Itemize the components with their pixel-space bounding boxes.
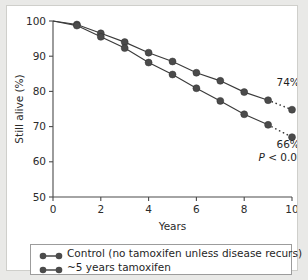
data-point-marker <box>121 45 128 52</box>
x-tick-label: 2 <box>97 203 104 215</box>
figure-container: 5060708090100 0246810 Still alive (%) Ye… <box>0 0 308 280</box>
x-axis-tick-labels: 0246810 <box>50 203 297 215</box>
y-tick-label: 60 <box>33 155 46 167</box>
data-point-marker <box>73 22 80 29</box>
legend-key-control-icon <box>37 247 67 259</box>
data-point-marker <box>145 59 152 66</box>
y-tick-label: 90 <box>33 50 46 62</box>
y-tick-label: 70 <box>33 120 46 132</box>
data-point-marker <box>217 97 224 104</box>
data-point-marker <box>145 49 152 56</box>
series-control <box>53 21 296 141</box>
legend-item-tamoxifen: ~5 years tamoxifen <box>37 260 291 274</box>
p-value-annotation: P < 0.00001 <box>259 151 297 163</box>
legend-label-tamoxifen: ~5 years tamoxifen <box>67 261 171 273</box>
data-point-marker <box>241 89 248 96</box>
series-tamoxifen <box>53 21 296 113</box>
x-tick-label: 0 <box>50 203 57 215</box>
data-series-group <box>53 21 296 141</box>
chart-annotations: 74%66%P < 0.00001 <box>259 76 297 163</box>
endpoint-annotation: 74% <box>276 76 297 88</box>
data-point-marker <box>193 85 200 92</box>
data-point-marker <box>289 106 296 113</box>
y-tick-label: 100 <box>26 15 46 27</box>
x-tick-label: 8 <box>241 203 248 215</box>
data-point-marker <box>193 69 200 76</box>
y-tick-label: 50 <box>33 191 46 203</box>
x-axis-ticks <box>53 197 292 201</box>
series-line-solid <box>53 21 268 100</box>
data-point-marker <box>169 71 176 78</box>
data-point-marker <box>217 77 224 84</box>
y-axis-tick-labels: 5060708090100 <box>26 15 46 203</box>
series-line-solid <box>53 21 268 125</box>
series-line-dotted <box>268 100 292 110</box>
axes-group: 5060708090100 0246810 <box>26 15 297 215</box>
survival-curve-plot: 5060708090100 0246810 Still alive (%) Ye… <box>7 6 297 270</box>
data-point-marker <box>169 58 176 65</box>
x-axis-title: Years <box>158 220 187 232</box>
data-point-marker <box>97 33 104 40</box>
y-axis-ticks <box>49 21 53 197</box>
series-line-dotted <box>268 125 292 137</box>
endpoint-annotation: 66% <box>276 138 297 150</box>
chart-panel: 5060708090100 0246810 Still alive (%) Ye… <box>6 5 298 271</box>
data-point-marker <box>241 111 248 118</box>
data-point-marker <box>265 121 272 128</box>
y-axis-title: Still alive (%) <box>13 74 25 143</box>
legend-key-tamoxifen-icon <box>37 261 67 273</box>
x-tick-label: 6 <box>193 203 200 215</box>
x-tick-label: 4 <box>145 203 152 215</box>
legend: Control (no tamoxifen unless disease rec… <box>30 244 292 275</box>
legend-label-control: Control (no tamoxifen unless disease rec… <box>67 247 302 259</box>
data-point-marker <box>265 97 272 104</box>
legend-item-control: Control (no tamoxifen unless disease rec… <box>37 246 291 260</box>
x-tick-label: 10 <box>285 203 297 215</box>
y-tick-label: 80 <box>33 85 46 97</box>
